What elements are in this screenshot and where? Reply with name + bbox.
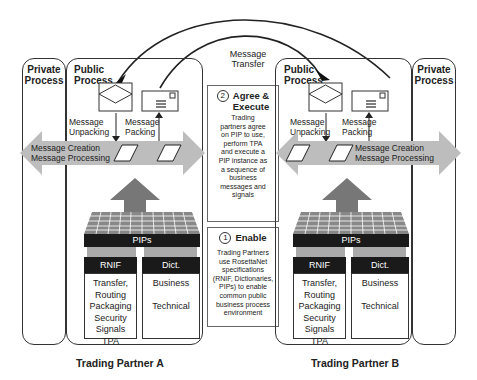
creation-label-b: Message Creation Message Processing — [355, 143, 434, 163]
dict-bevel-b — [353, 247, 406, 257]
rnif-bevel-a — [87, 247, 136, 257]
rnif-bevel-b — [296, 247, 345, 257]
private-process-b — [412, 58, 456, 345]
private-process-a-label: Private Process — [22, 64, 66, 86]
envelope-icons-b — [308, 82, 392, 112]
dict-bevel-a — [144, 247, 197, 257]
private-process-a — [22, 58, 66, 345]
pips-bar-b: PIPs — [293, 234, 409, 247]
rnif-items-a: Transfer, Routing Packaging Security Sig… — [84, 273, 137, 339]
pip-grid-b — [293, 212, 409, 234]
dict-items-a: Business Technical — [142, 273, 200, 339]
private-process-b-label: Private Process — [412, 64, 456, 86]
step-title: Agree & Execute — [233, 90, 269, 112]
dict-header-a: Dict. — [142, 257, 200, 273]
partner-a-label: Trading Partner A — [76, 357, 164, 369]
step-number-1: 1 — [219, 232, 231, 244]
step-number-2: 2 — [217, 90, 229, 102]
dict-items-b: Business Technical — [351, 273, 409, 339]
step-enable: 1Enable Trading Partners use RosettaNet … — [207, 227, 279, 327]
step-text: Trading partners agree on PIP to use, pe… — [210, 114, 276, 200]
dict-header-b: Dict. — [351, 257, 409, 273]
envelope-icons-a — [98, 82, 182, 112]
rnif-header-a: RNIF — [84, 257, 137, 273]
rnif-items-b: Transfer, Routing Packaging Security Sig… — [293, 273, 346, 339]
step-title: Enable — [235, 232, 266, 244]
step-agree-execute: 2Agree & Execute Trading partners agree … — [207, 85, 279, 222]
message-transfer-label: Message Transfer — [218, 49, 278, 69]
creation-label-a: Message Creation Message Processing — [31, 143, 110, 163]
partner-b-label: Trading Partner B — [311, 357, 399, 369]
rnif-header-b: RNIF — [293, 257, 346, 273]
step-text: Trading Partners use RosettaNet specific… — [210, 249, 276, 318]
pip-grid-a — [84, 212, 200, 234]
pips-bar-a: PIPs — [84, 234, 200, 247]
